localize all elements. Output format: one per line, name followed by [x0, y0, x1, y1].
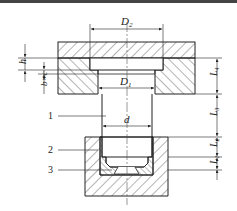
dim-D1: D1: [99, 75, 154, 89]
svg-text:1: 1: [48, 110, 53, 121]
svg-text:2: 2: [48, 144, 53, 155]
svg-text:L3: L3: [208, 107, 220, 117]
top-plate: [58, 42, 195, 58]
svg-text:L2: L2: [208, 138, 220, 148]
svg-text:3: 3: [48, 164, 53, 175]
svg-text:b×c: b×c: [39, 71, 49, 86]
svg-text:h: h: [17, 59, 28, 64]
section-drawing: D2 D1 d h b×c L4 L3: [0, 0, 237, 211]
svg-text:d: d: [124, 113, 130, 125]
svg-text:D2: D2: [120, 15, 133, 29]
svg-text:L4: L4: [208, 67, 220, 77]
callout-1: 1: [48, 110, 106, 121]
svg-text:D1: D1: [119, 75, 131, 89]
